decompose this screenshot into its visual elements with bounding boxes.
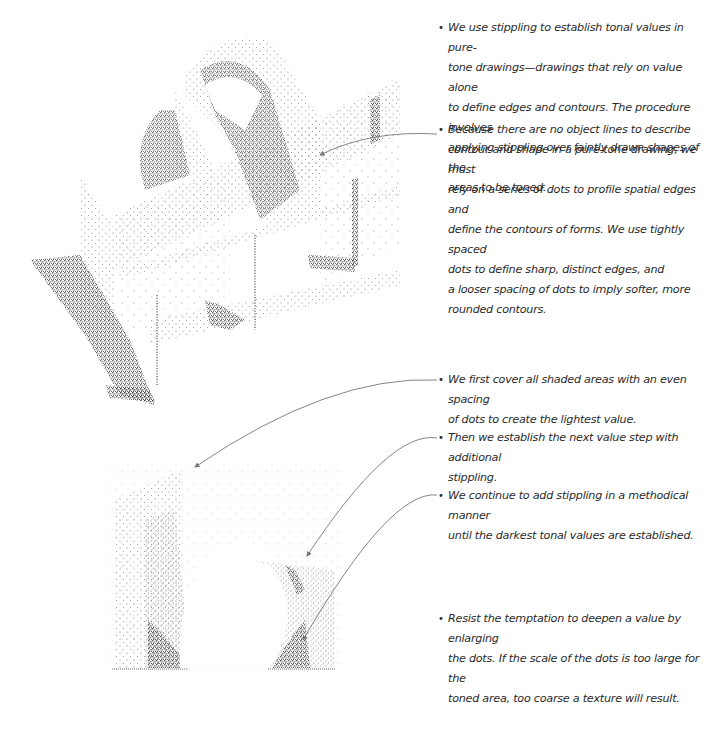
bullet-icon: • <box>438 120 444 140</box>
note-line: toned area, too coarse a texture will re… <box>448 689 710 709</box>
note-line: tone drawings—drawings that rely on valu… <box>448 58 710 98</box>
bullet-icon: • <box>438 609 444 629</box>
note-line: rely on a series of dots to profile spat… <box>448 180 710 220</box>
note-step1: • We first cover all shaded areas with a… <box>448 370 710 430</box>
note-line: a looser spacing of dots to imply softer… <box>448 280 710 300</box>
note-line: define the contours of forms. We use tig… <box>448 220 710 260</box>
note-line: We first cover all shaded areas with an … <box>448 370 710 410</box>
note-line: the dots. If the scale of the dots is to… <box>448 649 710 689</box>
note-caution: • Resist the temptation to deepen a valu… <box>448 609 710 709</box>
right-wall <box>320 75 400 285</box>
bullet-icon: • <box>438 18 444 38</box>
leader-step1 <box>195 380 437 467</box>
note-line: Then we establish the next value step wi… <box>448 428 710 468</box>
bullet-icon: • <box>438 428 444 448</box>
note-line: Because there are no object lines to des… <box>448 120 710 140</box>
note-line: stippling. <box>448 468 710 488</box>
note-step2: • Then we establish the next value step … <box>448 428 710 488</box>
note-line: Resist the temptation to deepen a value … <box>448 609 710 649</box>
note-line: rounded contours. <box>448 300 710 320</box>
bottom-stippled-study <box>110 465 340 670</box>
top-stippled-composition <box>30 37 400 405</box>
note-line: contour and shape in a pure-tone drawing… <box>448 140 710 180</box>
note-line: of dots to create the lightest value. <box>448 410 710 430</box>
note-line: We use stippling to establish tonal valu… <box>448 18 710 58</box>
note-line: dots to define sharp, distinct edges, an… <box>448 260 710 280</box>
note-step3: • We continue to add stippling in a meth… <box>448 486 710 546</box>
note-line: We continue to add stippling in a method… <box>448 486 710 526</box>
bullet-icon: • <box>438 486 444 506</box>
note-edges: • Because there are no object lines to d… <box>448 120 710 320</box>
note-line: until the darkest tonal values are estab… <box>448 526 710 546</box>
bullet-icon: • <box>438 370 444 390</box>
